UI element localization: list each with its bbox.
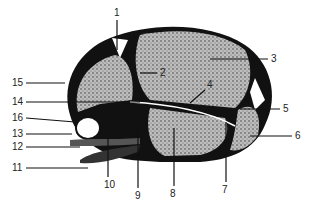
label-3: 3	[271, 54, 277, 64]
label-7: 7	[222, 185, 228, 195]
label-11: 11	[12, 163, 22, 173]
skull-diagram: 1 2 3 4 5 6 7 8 9 10 11 12 13 14 15 16	[0, 0, 309, 209]
skull-illustration	[0, 0, 309, 209]
label-16: 16	[12, 113, 23, 123]
label-2: 2	[160, 68, 166, 78]
label-9: 9	[135, 191, 141, 201]
label-15: 15	[12, 78, 23, 88]
label-14: 14	[12, 97, 23, 107]
label-4: 4	[207, 80, 213, 90]
label-6: 6	[295, 131, 301, 141]
label-8: 8	[170, 189, 176, 199]
label-10: 10	[104, 180, 115, 190]
label-5: 5	[283, 104, 289, 114]
label-1: 1	[114, 8, 120, 18]
label-13: 13	[12, 129, 23, 139]
label-12: 12	[12, 142, 23, 152]
